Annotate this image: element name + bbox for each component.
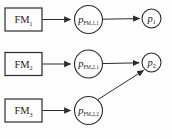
edge-pfm22-to-p2 <box>98 71 144 100</box>
edge-pfm11-to-p1 <box>103 19 140 20</box>
diagram-container: FM1 FM2 FM3 pFM,1,1 pFM,2,1 pFM,2,2 p1 p… <box>0 0 172 139</box>
edge-pfm21-to-p2 <box>103 63 140 64</box>
fault-mechanism-diagram: FM1 FM2 FM3 pFM,1,1 pFM,2,1 pFM,2,2 p1 p… <box>0 0 172 139</box>
